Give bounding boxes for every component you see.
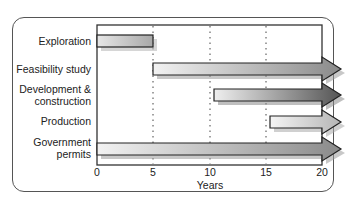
label-permits-2: permits: [57, 148, 91, 160]
label-development-1: Development &: [19, 83, 91, 95]
bar-exploration: [97, 35, 153, 47]
tick-0: 0: [94, 166, 100, 178]
x-axis-label: Years: [197, 179, 223, 191]
label-permits-1: Government: [33, 136, 91, 148]
tick-10: 10: [204, 166, 216, 178]
tick-5: 5: [150, 166, 156, 178]
label-production: Production: [41, 115, 91, 127]
tick-20: 20: [316, 166, 328, 178]
label-feasibility: Feasibility study: [16, 63, 91, 75]
label-exploration: Exploration: [38, 35, 91, 47]
gantt-chart: Exploration Feasibility study Developmen…: [0, 0, 363, 210]
tick-15: 15: [260, 166, 272, 178]
label-development-2: construction: [34, 95, 91, 107]
